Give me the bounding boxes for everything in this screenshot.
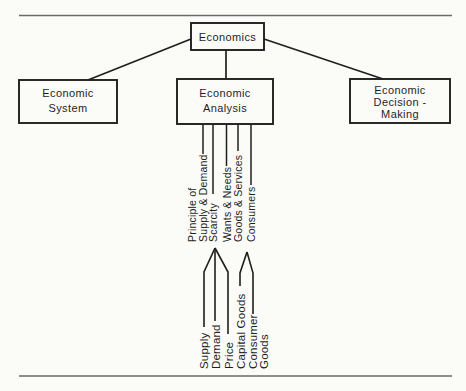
economic-analysis-label-line1: Economic: [199, 87, 251, 99]
influence-label-supply: Supply: [198, 333, 210, 369]
economic-analysis-node: Economic Analysis: [177, 79, 273, 124]
economics-label: Economics: [199, 31, 256, 43]
influence-label-demand: Demand: [210, 324, 222, 369]
economics-node: Economics: [191, 23, 264, 50]
arrow1-right-shaft: [215, 248, 228, 334]
edge-root-to-system: [88, 39, 191, 80]
economic-decision-making-label-line1: Economic: [374, 84, 426, 96]
economic-decision-making-label-line2: Decision -: [374, 96, 427, 108]
arrow2-left-shaft: [240, 252, 247, 286]
economic-system-label-line2: System: [48, 102, 87, 114]
arrow1-left-shaft: [204, 248, 215, 327]
analysis-topic-consumers: Consumers: [245, 187, 257, 242]
analysis-topic-wants-and-needs: Wants & Needs: [221, 167, 233, 242]
merge-arrow-supply-demand-price: [204, 248, 228, 334]
economic-system-node: Economic System: [19, 80, 117, 123]
economic-system-label-line1: Economic: [42, 87, 94, 99]
analysis-topic-scarcity: Scarcity: [207, 203, 219, 242]
economic-decision-making-node: Economic Decision - Making: [350, 79, 450, 123]
influence-label-price: Price: [223, 342, 235, 369]
economics-tree-diagram: Economics Economic System Economic Analy…: [0, 0, 466, 391]
analysis-topic-goods-and-services: Goods & Services: [232, 155, 244, 242]
influence-label-goods: Goods: [258, 334, 270, 369]
economic-decision-making-label-line3: Making: [381, 108, 419, 120]
edge-root-to-decision: [264, 39, 383, 79]
economic-analysis-label-line2: Analysis: [203, 102, 247, 114]
influence-label-capital-goods: Capital Goods: [235, 293, 247, 369]
arrow2-right-shaft: [247, 252, 253, 314]
